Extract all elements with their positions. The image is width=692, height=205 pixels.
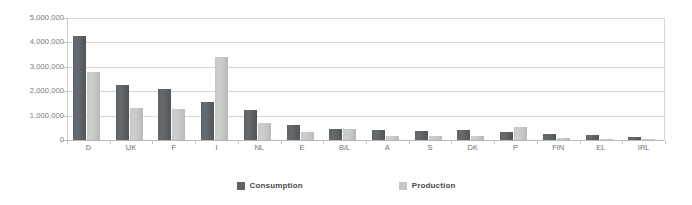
plot-area	[67, 18, 665, 140]
bar-production-d	[87, 72, 100, 140]
bar-consumption-d	[73, 36, 86, 140]
bar-consumption-dk	[457, 130, 470, 140]
bar-consumption-p	[500, 132, 513, 140]
bar-group	[538, 18, 581, 140]
bar-group	[282, 18, 325, 140]
bar-production-nl	[258, 123, 271, 140]
bar-consumption-e	[287, 125, 300, 140]
bar-chart: DUKFINLEB/LASDKPFINELIRL ConsumptionProd…	[0, 0, 692, 205]
bar-production-p	[514, 127, 527, 140]
bar-group	[324, 18, 367, 140]
bar-consumption-i	[201, 102, 214, 140]
bar-group	[452, 18, 495, 140]
bar-production-b-l	[343, 129, 356, 140]
x-tick-label-a: A	[366, 144, 409, 152]
x-tick-label-i: I	[195, 144, 238, 152]
bar-group	[581, 18, 624, 140]
x-tick-label-el: EL	[580, 144, 623, 152]
x-tick-label-irl: IRL	[622, 144, 665, 152]
legend-label: Production	[412, 182, 456, 190]
bar-consumption-s	[415, 131, 428, 140]
x-tick-label-f: F	[152, 144, 195, 152]
legend-label: Consumption	[250, 182, 303, 190]
y-tick-label: 2,000,000	[30, 87, 64, 95]
bar-consumption-nl	[244, 110, 257, 141]
bar-production-e	[301, 132, 314, 140]
x-tick-label-uk: UK	[110, 144, 153, 152]
y-tick-label: 5,000,000	[30, 14, 64, 22]
bar-consumption-a	[372, 130, 385, 140]
y-tick-label: 4,000,000	[30, 38, 64, 46]
x-tick-label-s: S	[409, 144, 452, 152]
y-tick-label: 3,000,000	[30, 63, 64, 71]
bar-production-s	[429, 136, 442, 140]
x-tick-label-nl: NL	[238, 144, 281, 152]
bar-production-f	[172, 109, 185, 140]
bar-group	[367, 18, 410, 140]
bar-group	[153, 18, 196, 140]
bar-consumption-uk	[116, 85, 129, 140]
bar-production-dk	[471, 136, 484, 140]
x-tick-label-d: D	[67, 144, 110, 152]
bar-group	[111, 18, 154, 140]
bar-group	[410, 18, 453, 140]
bar-production-i	[215, 57, 228, 140]
legend-swatch-production-icon	[399, 182, 407, 190]
bar-consumption-f	[158, 89, 171, 140]
bar-group	[239, 18, 282, 140]
x-tick-label-p: P	[494, 144, 537, 152]
bar-group	[196, 18, 239, 140]
legend-swatch-consumption-icon	[237, 182, 245, 190]
x-tick-label-dk: DK	[451, 144, 494, 152]
chart-legend: ConsumptionProduction	[0, 182, 692, 190]
bar-production-uk	[130, 108, 143, 140]
bar-consumption-fin	[543, 134, 556, 140]
bar-consumption-el	[586, 135, 599, 140]
y-tick-label: 1,000,000	[30, 112, 64, 120]
x-tick-label-e: E	[281, 144, 324, 152]
bar-consumption-irl	[628, 137, 641, 140]
bar-group	[495, 18, 538, 140]
x-tick-mark	[665, 140, 666, 144]
bar-production-el	[600, 139, 613, 140]
bar-consumption-b-l	[329, 129, 342, 140]
x-tick-label-b-l: B/L	[323, 144, 366, 152]
y-tick-label: 0	[60, 136, 64, 144]
legend-item-consumption[interactable]: Consumption	[237, 182, 303, 190]
bar-group	[623, 18, 666, 140]
legend-item-production[interactable]: Production	[399, 182, 456, 190]
bar-production-fin	[557, 138, 570, 140]
bar-production-a	[386, 136, 399, 140]
bar-group	[68, 18, 111, 140]
x-tick-label-fin: FIN	[537, 144, 580, 152]
bar-production-irl	[642, 139, 655, 140]
